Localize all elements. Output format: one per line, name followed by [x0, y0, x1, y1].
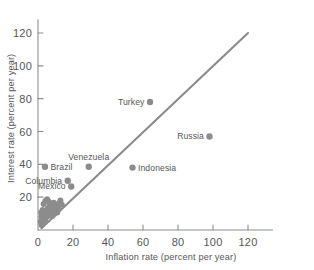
data-point-brazil[interactable]: [42, 164, 48, 170]
chart-canvas: 02040608010012020406080100120TurkeyRussi…: [0, 0, 314, 270]
scatter-chart-figure: 02040608010012020406080100120TurkeyRussi…: [0, 0, 314, 270]
x-tick-label: 120: [239, 236, 258, 248]
y-axis-title: Interest rate (percent per year): [6, 54, 16, 183]
data-point-turkey[interactable]: [147, 99, 153, 105]
x-tick-label: 100: [204, 236, 223, 248]
data-point-venezuela[interactable]: [86, 164, 92, 170]
data-point[interactable]: [41, 201, 47, 207]
data-point-indonesia[interactable]: [129, 164, 135, 170]
x-axis-title: Inflation rate (percent per year): [105, 252, 236, 262]
y-tick-label: 20: [19, 191, 32, 203]
data-point[interactable]: [54, 210, 60, 216]
point-label-russia: Russia: [177, 131, 204, 141]
data-point[interactable]: [59, 202, 65, 208]
point-label-turkey: Turkey: [118, 97, 145, 107]
x-tick-label: 0: [35, 236, 41, 248]
x-tick-label: 60: [137, 236, 150, 248]
data-point-russia[interactable]: [206, 133, 212, 139]
point-label-venezuela: Venezuela: [68, 152, 109, 162]
x-tick-label: 20: [67, 236, 80, 248]
x-tick-label: 80: [172, 236, 185, 248]
data-point-mexico[interactable]: [68, 183, 74, 189]
point-label-indonesia: Indonesia: [138, 163, 176, 173]
point-label-mexico: Mexico: [38, 181, 66, 191]
point-label-brazil: Brazil: [51, 162, 73, 172]
data-point[interactable]: [40, 207, 46, 213]
y-tick-label: 80: [19, 93, 32, 105]
data-point[interactable]: [46, 199, 52, 205]
x-tick-label: 40: [102, 236, 115, 248]
y-tick-label: 40: [19, 158, 32, 170]
trend-line: [42, 33, 249, 228]
y-tick-label: 120: [13, 27, 32, 39]
y-tick-label: 60: [19, 126, 32, 138]
